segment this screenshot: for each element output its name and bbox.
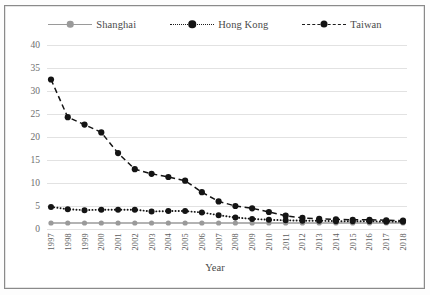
x-tick-label-2013: 2013 xyxy=(315,233,324,251)
x-tick-label-2002: 2002 xyxy=(130,233,139,251)
y-tick-label-10: 10 xyxy=(31,178,41,188)
x-tick-label-2003: 2003 xyxy=(147,233,156,251)
series-line-taiwan xyxy=(51,80,403,221)
data-point xyxy=(216,212,222,218)
data-point xyxy=(99,220,104,225)
x-tick-label-2017: 2017 xyxy=(382,233,391,251)
y-tick-label-35: 35 xyxy=(31,63,41,73)
data-point xyxy=(232,203,238,209)
x-tick-label-2007: 2007 xyxy=(214,233,223,251)
data-point xyxy=(216,198,222,204)
data-point xyxy=(65,114,71,120)
x-tick-label-2005: 2005 xyxy=(181,233,190,251)
data-point xyxy=(233,220,238,225)
data-point xyxy=(400,218,406,224)
legend-label-taiwan: Taiwan xyxy=(350,19,381,30)
data-point xyxy=(149,220,154,225)
x-tick-label-2012: 2012 xyxy=(298,233,307,251)
x-tick-label-2014: 2014 xyxy=(331,233,340,251)
data-point xyxy=(132,166,138,172)
data-point xyxy=(98,207,104,213)
data-point xyxy=(81,121,87,127)
data-point xyxy=(65,206,71,212)
y-tick-label-40: 40 xyxy=(31,40,41,50)
x-tick-label-2018: 2018 xyxy=(399,233,408,251)
data-point xyxy=(165,208,171,214)
plot-area: 0510152025303540 xyxy=(47,45,407,229)
data-point xyxy=(48,204,54,210)
data-point xyxy=(283,213,289,219)
data-point xyxy=(199,189,205,195)
data-point xyxy=(148,171,154,177)
data-point xyxy=(182,178,188,184)
legend-label-hong-kong: Hong Kong xyxy=(218,19,268,30)
data-point xyxy=(48,220,53,225)
data-point xyxy=(183,220,188,225)
data-point xyxy=(266,217,272,223)
y-tick-label-5: 5 xyxy=(35,201,40,211)
y-tick-label-30: 30 xyxy=(31,86,41,96)
legend-key-taiwan xyxy=(302,19,346,30)
data-point xyxy=(350,217,356,223)
data-point xyxy=(65,220,70,225)
gridline-0 xyxy=(47,229,407,230)
x-tick-label-2001: 2001 xyxy=(114,233,123,251)
data-point xyxy=(98,129,104,135)
data-point xyxy=(316,216,322,222)
x-axis-title: Year xyxy=(0,262,430,273)
y-tick-label-15: 15 xyxy=(31,155,41,165)
data-point xyxy=(366,217,372,223)
data-point xyxy=(115,207,121,213)
data-point xyxy=(182,208,188,214)
data-point xyxy=(333,216,339,222)
data-point xyxy=(82,207,88,213)
data-point xyxy=(166,220,171,225)
data-point xyxy=(115,220,120,225)
x-tick-label-2008: 2008 xyxy=(231,233,240,251)
x-tick-label-2016: 2016 xyxy=(365,233,374,251)
data-point xyxy=(165,174,171,180)
x-tick-label-2011: 2011 xyxy=(281,233,290,250)
data-point xyxy=(266,209,272,215)
x-tick-label-2015: 2015 xyxy=(348,233,357,251)
data-point xyxy=(115,150,121,156)
data-point xyxy=(48,76,54,82)
x-tick-label-2010: 2010 xyxy=(264,233,273,251)
data-point xyxy=(82,220,87,225)
data-point xyxy=(232,215,238,221)
data-point xyxy=(132,220,137,225)
chart-legend: Shanghai Hong Kong Taiwan xyxy=(0,14,430,34)
y-tick-label-20: 20 xyxy=(31,132,41,142)
data-point xyxy=(299,215,305,221)
legend-item-shanghai[interactable]: Shanghai xyxy=(48,19,136,30)
x-tick-label-1999: 1999 xyxy=(80,233,89,251)
series-lines xyxy=(47,45,407,229)
x-tick-label-1997: 1997 xyxy=(47,233,56,251)
legend-key-shanghai xyxy=(48,19,92,30)
legend-key-hong-kong xyxy=(170,19,214,30)
y-tick-label-25: 25 xyxy=(31,109,41,119)
data-point xyxy=(132,207,138,213)
data-point xyxy=(249,205,255,211)
y-tick-label-0: 0 xyxy=(35,224,40,234)
chart-figure: Shanghai Hong Kong Taiwan 05101520253035… xyxy=(0,0,430,295)
legend-item-taiwan[interactable]: Taiwan xyxy=(302,19,381,30)
x-tick-label-2000: 2000 xyxy=(97,233,106,251)
data-point xyxy=(216,220,221,225)
x-tick-label-2004: 2004 xyxy=(164,233,173,251)
data-point xyxy=(199,209,205,215)
x-tick-label-2009: 2009 xyxy=(248,233,257,251)
data-point xyxy=(383,217,389,223)
x-tick-label-2006: 2006 xyxy=(197,233,206,251)
data-point xyxy=(149,209,155,215)
x-tick-label-1998: 1998 xyxy=(63,233,72,251)
legend-item-hong-kong[interactable]: Hong Kong xyxy=(170,19,268,30)
legend-label-shanghai: Shanghai xyxy=(96,19,136,30)
data-point xyxy=(199,220,204,225)
data-point xyxy=(249,216,255,222)
